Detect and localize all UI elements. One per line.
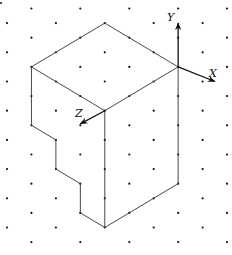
grid-dot [226,183,228,185]
grid-dot [128,124,130,126]
grid-dot [128,183,130,185]
grid-dot [153,139,155,141]
grid-dot [226,241,228,243]
grid-dot [153,110,155,112]
grid-dot [79,7,81,9]
isometric-diagram: Y X Z [0,0,232,255]
grid-dot [30,153,32,155]
solid-edge [56,169,80,184]
grid-dot [79,153,81,155]
grid-dot [202,22,204,24]
grid-dot [128,66,130,68]
grid-dot [226,66,228,68]
grid-dot [79,124,81,126]
grid-dot [153,22,155,24]
grid-dot [153,168,155,170]
grid-dot [226,124,228,126]
grid-dot [202,226,204,228]
grid-dot [153,226,155,228]
solid-edge [105,23,178,67]
grid-dot [202,197,204,199]
solid-edges [31,23,178,227]
coordinate-axes [80,23,214,124]
grid-dot [202,110,204,112]
grid-dot [226,37,228,39]
grid-dot [226,212,228,214]
grid-dot [6,226,8,228]
grid-dot [30,183,32,185]
grid-dot [79,241,81,243]
grid-dot [226,95,228,97]
z-axis-label: Z [74,107,83,120]
grid-dot [55,197,57,199]
grid-dot [6,197,8,199]
grid-dot [226,7,228,9]
grid-dot [6,168,8,170]
grid-dot [55,22,57,24]
grid-dot [128,241,130,243]
dot-grid [6,7,228,243]
solid-edge [105,184,178,228]
solid-edge [31,23,104,67]
x-axis-label: X [208,67,218,80]
grid-dot [55,110,57,112]
grid-dot [177,241,179,243]
solid-edge [80,213,104,228]
grid-dot [226,153,228,155]
solid-edge [31,67,104,111]
corner-dot-artifact [0,2,2,4]
grid-dot [177,7,179,9]
grid-dot [6,51,8,53]
grid-dot [202,51,204,53]
grid-dot [30,7,32,9]
grid-dot [6,22,8,24]
grid-dot [177,212,179,214]
grid-dot [6,80,8,82]
grid-dot [128,153,130,155]
grid-dot [104,51,106,53]
grid-dot [6,110,8,112]
grid-dot [30,37,32,39]
grid-dot [79,66,81,68]
grid-dot [30,212,32,214]
grid-dot [202,139,204,141]
grid-dot [104,80,106,82]
grid-dot [30,241,32,243]
solid-edge [105,67,178,111]
grid-dot [128,7,130,9]
grid-dot [6,139,8,141]
grid-dot [55,226,57,228]
z-axis-arrow-icon [80,111,104,124]
grid-dot [202,80,204,82]
grid-dot [202,168,204,170]
solid-edge [31,125,55,140]
y-axis-label: Y [167,11,176,24]
